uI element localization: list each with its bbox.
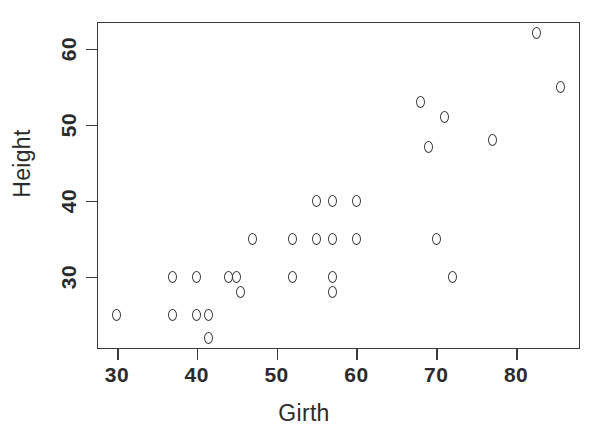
y-tick-label: 30 — [57, 260, 81, 294]
y-tick-label: 60 — [57, 32, 81, 66]
x-tick-mark — [117, 349, 119, 360]
y-tick-mark — [86, 125, 97, 127]
y-tick-label: 50 — [57, 108, 81, 142]
plot-frame — [97, 22, 580, 349]
x-tick-label: 80 — [504, 363, 528, 387]
x-tick-mark — [516, 349, 518, 360]
x-axis-title: Girth — [0, 400, 608, 427]
x-tick-label: 50 — [264, 363, 288, 387]
y-tick-label: 40 — [57, 184, 81, 218]
x-tick-mark — [277, 349, 279, 360]
x-tick-mark — [197, 349, 199, 360]
y-axis-title: Height — [9, 114, 36, 214]
x-tick-label: 70 — [424, 363, 448, 387]
y-tick-mark — [86, 49, 97, 51]
x-tick-label: 40 — [185, 363, 209, 387]
x-tick-label: 60 — [344, 363, 368, 387]
x-tick-mark — [436, 349, 438, 360]
y-tick-mark — [86, 201, 97, 203]
y-tick-mark — [86, 277, 97, 279]
scatter-plot-figure: 304050607080 30405060 Girth Height — [0, 0, 608, 442]
x-tick-mark — [356, 349, 358, 360]
x-tick-label: 30 — [105, 363, 129, 387]
